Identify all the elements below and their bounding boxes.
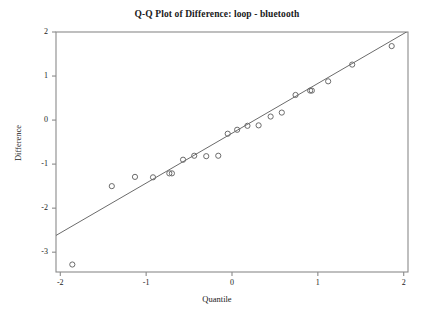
y-tick-label: 0 [28,115,48,124]
y-tick-label: -1 [28,159,48,168]
y-axis-title: Difference [13,103,23,183]
x-axis-title: Quantile [0,294,434,304]
plot-frame [56,32,408,272]
x-tick-label: 0 [220,278,244,287]
page-title: Q-Q Plot of Difference: loop - bluetooth [0,9,434,19]
x-tick-label: 1 [306,278,330,287]
y-tick-label: 2 [28,27,48,36]
plot-area [0,0,434,317]
x-tick-label: -2 [48,278,72,287]
x-tick-label: 2 [392,278,416,287]
y-tick-label: -3 [28,247,48,256]
y-tick-label: -2 [28,203,48,212]
y-tick-label: 1 [28,71,48,80]
x-tick-label: -1 [134,278,158,287]
qq-plot-figure: Q-Q Plot of Difference: loop - bluetooth… [0,0,434,317]
